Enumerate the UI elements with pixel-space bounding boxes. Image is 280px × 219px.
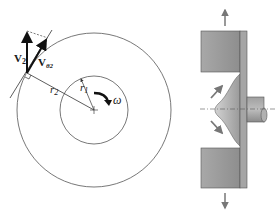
flow-arrow-bottom bbox=[211, 121, 222, 133]
rotor-diagram: V2 Vθ2 r2 r1 ω bbox=[10, 30, 171, 187]
r2-label: r2 bbox=[50, 83, 58, 97]
diagram-canvas: V2 Vθ2 r2 r1 ω bbox=[0, 0, 280, 219]
r1-label: r1 bbox=[80, 81, 88, 95]
impeller-section bbox=[200, 10, 275, 208]
bottom-block bbox=[201, 148, 240, 188]
vtheta2-label: Vθ2 bbox=[38, 56, 54, 70]
omega-label: ω bbox=[113, 93, 121, 107]
hub-bump bbox=[215, 74, 240, 146]
flow-arrow-top bbox=[211, 86, 222, 98]
top-block bbox=[201, 31, 240, 72]
back-plate bbox=[240, 31, 247, 188]
v2-label: V2 bbox=[14, 52, 26, 66]
